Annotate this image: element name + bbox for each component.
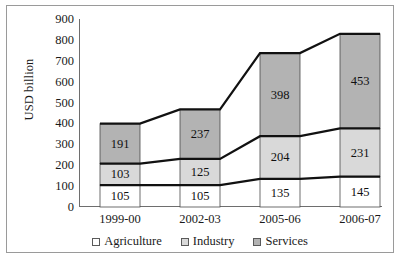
legend-label: Industry (193, 234, 235, 249)
y-tick-label: 500 (44, 95, 74, 110)
plot-area: 9008007006005004003002001000 10510319110… (79, 19, 382, 207)
chart-frame: USD billion 9008007006005004003002001000… (6, 5, 394, 253)
legend-item[interactable]: Services (253, 234, 307, 249)
stack-segment (260, 136, 300, 179)
series-boundary-line (100, 177, 380, 185)
legend-label: Services (265, 234, 307, 249)
x-category-label: 1999-00 (99, 212, 141, 227)
stack-segment (100, 185, 140, 207)
x-category-label: 2002-03 (179, 212, 221, 227)
legend-label: Agriculture (104, 234, 162, 249)
y-tick-label: 700 (44, 53, 74, 68)
y-tick-label: 600 (44, 74, 74, 89)
x-category-label: 2005-06 (259, 212, 301, 227)
stack-segment (100, 164, 140, 186)
stack-segment (340, 128, 380, 176)
legend-swatch-icon (92, 238, 100, 246)
y-tick-label: 200 (44, 158, 74, 173)
stack-segment (180, 185, 220, 207)
stack-segment (260, 179, 300, 207)
y-tick-label: 300 (44, 137, 74, 152)
legend-swatch-icon (181, 238, 189, 246)
y-tick-label: 900 (44, 12, 74, 27)
y-tick-label: 100 (44, 179, 74, 194)
legend-item[interactable]: Industry (181, 234, 235, 249)
y-tick-label: 0 (44, 200, 74, 215)
series-boundary-line (100, 34, 380, 124)
stack-segment (180, 109, 220, 159)
stacked-area-series (79, 19, 382, 207)
legend-item[interactable]: Agriculture (92, 234, 162, 249)
legend-swatch-icon (253, 238, 261, 246)
x-category-label: 2006-07 (339, 212, 381, 227)
y-tick-label: 400 (44, 116, 74, 131)
stack-segment (180, 159, 220, 185)
series-boundary-line (100, 128, 380, 163)
stack-segment (340, 34, 380, 129)
stack-segment (100, 124, 140, 164)
chart-legend: AgricultureIndustryServices (7, 234, 393, 249)
stack-segment (340, 177, 380, 207)
stack-segment (260, 53, 300, 136)
y-tick-label: 800 (44, 32, 74, 47)
y-axis-title: USD billion (22, 35, 37, 145)
